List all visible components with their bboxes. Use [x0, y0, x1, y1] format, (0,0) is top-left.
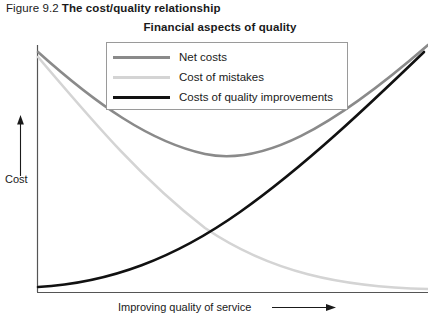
legend-swatch-costs-of-quality-improvements: [113, 96, 170, 99]
legend-item-cost-of-mistakes: Cost of mistakes: [113, 67, 264, 87]
legend-swatch-net-costs: [113, 56, 170, 59]
legend-label-net-costs: Net costs: [179, 50, 227, 64]
chart-legend: Net costs Cost of mistakes Costs of qual…: [106, 42, 348, 110]
legend-item-costs-of-quality-improvements: Costs of quality improvements: [113, 87, 333, 107]
y-axis-arrow-icon: [17, 115, 24, 176]
y-axis-label: Cost: [5, 172, 28, 186]
x-axis-label: Improving quality of service: [118, 300, 251, 314]
legend-item-net-costs: Net costs: [113, 47, 227, 67]
figure-container: Figure 9.2The cost/quality relationship …: [0, 0, 428, 322]
legend-swatch-cost-of-mistakes: [113, 76, 170, 79]
legend-label-costs-of-quality-improvements: Costs of quality improvements: [179, 90, 333, 104]
x-axis-arrow-icon: [272, 304, 336, 311]
legend-label-cost-of-mistakes: Cost of mistakes: [179, 70, 264, 84]
